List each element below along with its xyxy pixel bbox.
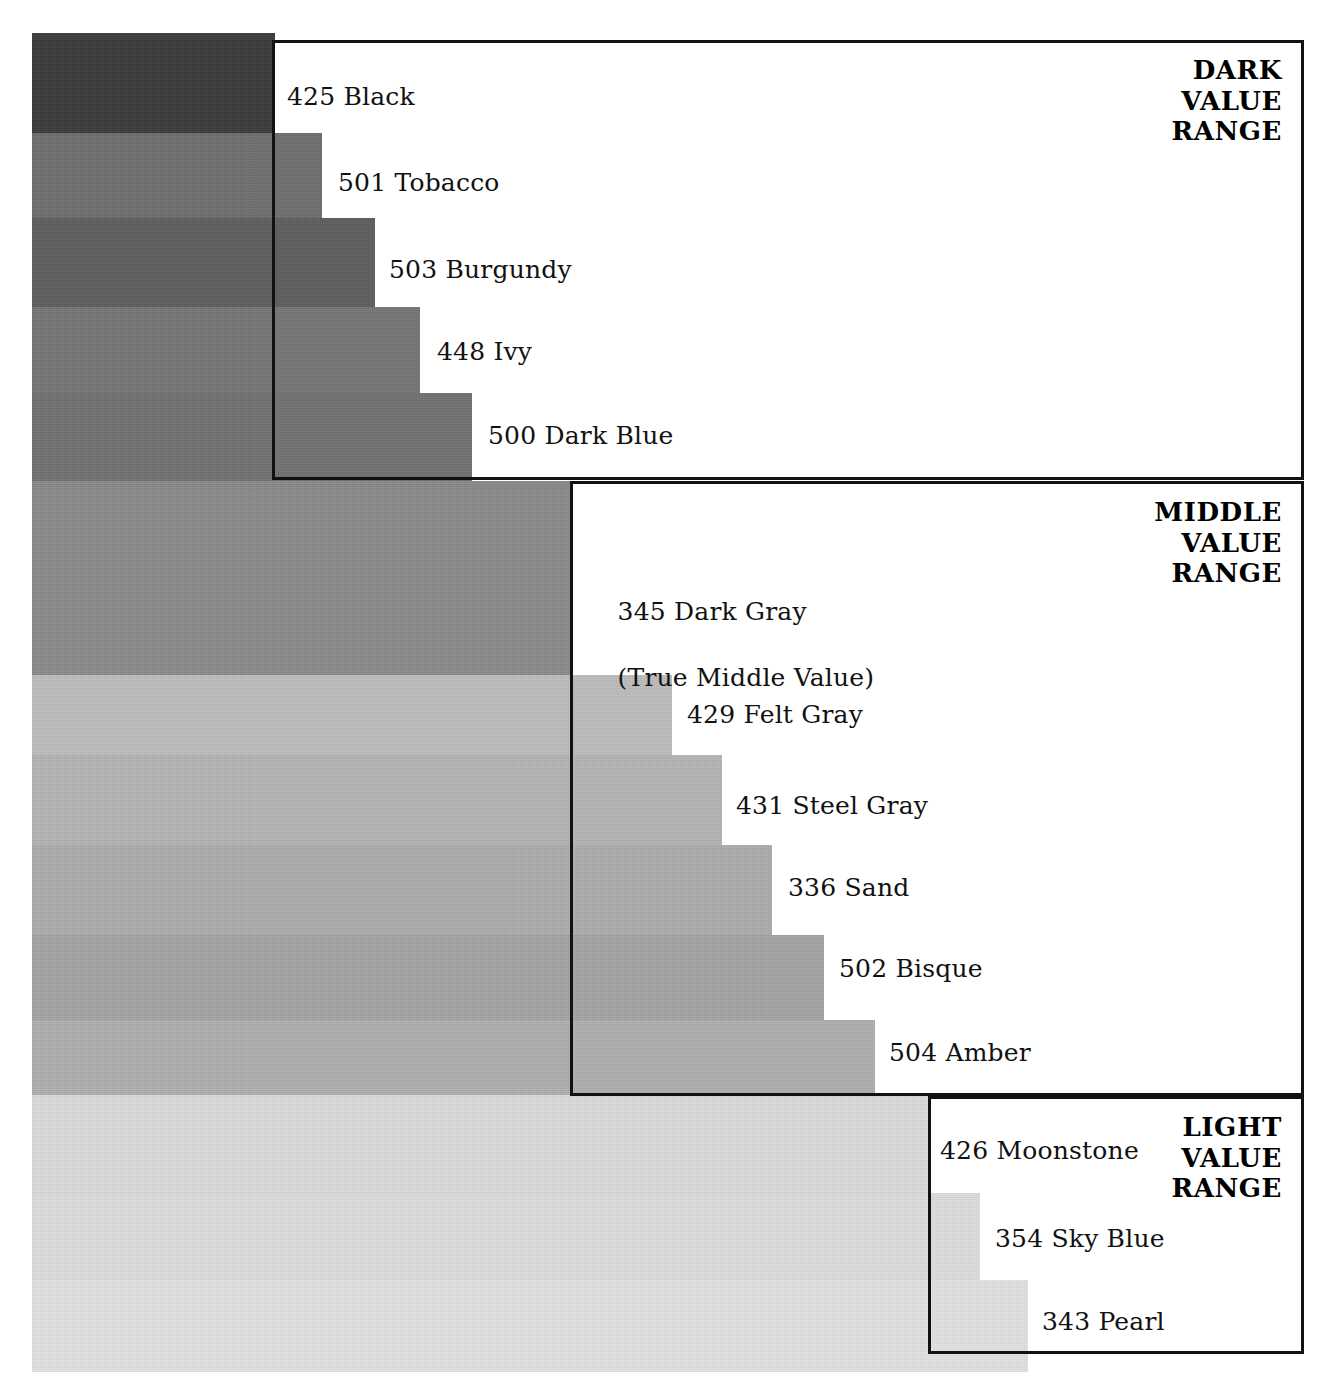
- swatch-426-moonstone: [32, 1095, 930, 1193]
- swatch-336-sand: [32, 845, 772, 935]
- label-426-moonstone: 426 Moonstone: [940, 1134, 1139, 1167]
- swatch-texture: [32, 845, 772, 935]
- swatch-354-sky-blue: [32, 1193, 980, 1280]
- label-425-black: 425 Black: [287, 80, 415, 113]
- swatch-431-steel-gray: [32, 755, 722, 845]
- swatch-texture: [32, 307, 420, 393]
- label-345-dark-gray-name: 345 Dark Gray: [618, 597, 807, 626]
- swatch-343-pearl: [32, 1280, 1028, 1372]
- swatch-texture: [32, 33, 275, 133]
- swatch-345-dark-gray: [32, 481, 572, 675]
- label-431-steel-gray: 431 Steel Gray: [736, 789, 928, 822]
- swatch-texture: [32, 481, 572, 675]
- label-429-felt-gray: 429 Felt Gray: [687, 698, 863, 731]
- label-354-sky-blue: 354 Sky Blue: [995, 1222, 1165, 1255]
- swatch-texture: [32, 1095, 930, 1193]
- swatch-503-burgundy: [32, 218, 375, 307]
- swatch-texture: [32, 1280, 1028, 1372]
- label-502-bisque: 502 Bisque: [839, 952, 983, 985]
- value-range-chart: DARK VALUE RANGE MIDDLE VALUE RANGE LIGH…: [0, 0, 1342, 1397]
- swatch-501-tobacco: [32, 133, 322, 218]
- swatch-texture: [32, 1020, 875, 1095]
- swatch-texture: [32, 133, 322, 218]
- swatch-texture: [32, 218, 375, 307]
- label-504-amber: 504 Amber: [889, 1036, 1031, 1069]
- dark-range-title: DARK VALUE RANGE: [1022, 55, 1282, 147]
- swatch-502-bisque: [32, 935, 824, 1020]
- swatch-500-dark-blue: [32, 393, 472, 481]
- swatch-425-black: [32, 33, 275, 133]
- label-345-dark-gray-note: (True Middle Value): [618, 663, 875, 692]
- swatch-texture: [32, 1193, 980, 1280]
- swatch-448-ivy: [32, 307, 420, 393]
- middle-range-title: MIDDLE VALUE RANGE: [1022, 497, 1282, 589]
- label-343-pearl: 343 Pearl: [1042, 1305, 1165, 1338]
- swatch-texture: [32, 393, 472, 481]
- label-336-sand: 336 Sand: [788, 871, 909, 904]
- label-501-tobacco: 501 Tobacco: [338, 166, 500, 199]
- swatch-429-felt-gray: [32, 675, 672, 755]
- label-503-burgundy: 503 Burgundy: [389, 253, 572, 286]
- swatch-504-amber: [32, 1020, 875, 1095]
- label-500-dark-blue: 500 Dark Blue: [488, 419, 674, 452]
- swatch-texture: [32, 755, 722, 845]
- swatch-texture: [32, 675, 672, 755]
- swatch-texture: [32, 935, 824, 1020]
- label-448-ivy: 448 Ivy: [437, 335, 532, 368]
